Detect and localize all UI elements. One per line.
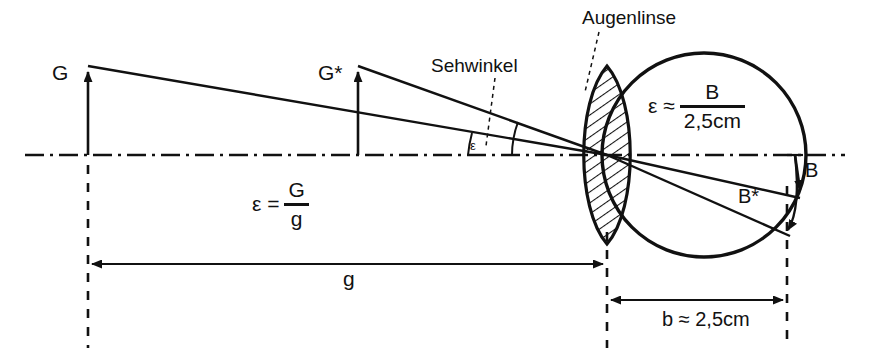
formula-visual-angle-object: ε = G g bbox=[252, 178, 309, 231]
fraction-stack: G g bbox=[284, 178, 308, 231]
optics-diagram-canvas: G G* Sehwinkel Augenlinse ε B B* g b ≈ 2… bbox=[0, 0, 869, 352]
ray-to-image-B-star bbox=[607, 155, 790, 236]
label-object-G-star: G* bbox=[318, 62, 343, 83]
label-object-distance-g: g bbox=[343, 268, 355, 289]
label-image-distance-b: b ≈ 2,5cm bbox=[662, 309, 750, 329]
ray-to-image-B bbox=[607, 155, 800, 198]
label-augenlinse: Augenlinse bbox=[582, 8, 676, 27]
formula-visual-angle-image: ε ≈ B 2,5cm bbox=[648, 80, 745, 133]
fraction-numerator: B bbox=[701, 80, 723, 105]
label-image-B-star: B* bbox=[738, 186, 759, 206]
ray-from-G-tip bbox=[88, 66, 607, 155]
image-arrow-B-star bbox=[788, 155, 797, 230]
label-image-B: B bbox=[805, 160, 818, 180]
label-object-G: G bbox=[52, 62, 68, 83]
diagram-vector-layer bbox=[0, 0, 869, 352]
label-sehwinkel: Sehwinkel bbox=[431, 56, 518, 75]
fraction-denominator: 2,5cm bbox=[680, 108, 745, 133]
formula-lead-symbol: ε = bbox=[252, 192, 279, 216]
fraction-stack: B 2,5cm bbox=[680, 80, 745, 133]
ray-from-G-star-tip bbox=[358, 66, 607, 155]
label-angle-epsilon: ε bbox=[470, 139, 476, 152]
fraction-numerator: G bbox=[284, 178, 308, 203]
formula-lead-symbol: ε ≈ bbox=[648, 94, 675, 118]
fraction-denominator: g bbox=[287, 206, 307, 231]
